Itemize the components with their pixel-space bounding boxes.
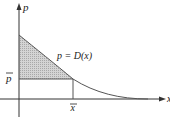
quantity-label: x [70,102,76,113]
x-axis-arrow-icon [159,97,166,102]
quantity-label-group: x [70,102,78,113]
price-label: p [5,72,12,84]
y-axis-arrow-icon [17,3,22,10]
curve-label: p = D(x) [56,50,93,62]
x-axis-label: x [166,93,170,104]
y-axis-label: p [22,1,29,13]
price-label-group: p [5,72,13,84]
consumer-surplus-diagram: p x p = D(x) p x [0,0,170,124]
